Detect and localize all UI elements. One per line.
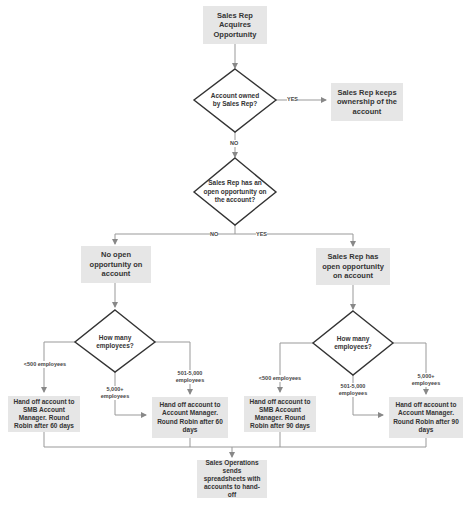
edge-label-left-5000plus: 5,000+ employees	[100, 386, 130, 400]
decision-employees-right-text: How many employees?	[330, 333, 376, 353]
no-open-opportunity-node: No open opportunity on account	[81, 246, 151, 283]
handoff-am-90-node: Hand off account to Account Manager. Rou…	[389, 397, 463, 438]
handoff-smb-60-node: Hand off account to SMB Account Manager.…	[8, 396, 80, 432]
decision-owned-text: Account owned by Sales Rep?	[207, 85, 263, 115]
edge-label-right-501-5000: 501-5,000 employees	[335, 383, 371, 397]
start-node: Sales Rep Acquires Opportunity	[203, 6, 267, 44]
handoff-am-60-node: Hand off account to Account Manager. Rou…	[152, 397, 228, 438]
edge-label-right-lt500: <500 employees	[257, 375, 303, 382]
edge-label-owned-yes: YES	[287, 96, 298, 103]
handoff-smb-90-node: Hand off account to SMB Account Manager.…	[244, 396, 316, 432]
edge-label-owned-no: NO	[230, 140, 238, 147]
edge-label-open-no: NO	[210, 231, 218, 238]
keeps-ownership-node: Sales Rep keeps ownership of the account	[331, 83, 403, 121]
edge-label-left-lt500: <500 employees	[22, 361, 68, 368]
sales-ops-node: Sales Operations sends spreadsheets with…	[197, 460, 267, 498]
edge-label-left-501-5000: 501-5,000 employees	[172, 370, 208, 384]
has-open-opportunity-node: Sales Rep has open opportunity on accoun…	[316, 248, 390, 285]
edge-label-open-yes: YES	[256, 231, 267, 238]
decision-employees-left-text: How many employees?	[92, 332, 138, 352]
edge-label-right-5000plus: 5,000+ employees	[410, 373, 442, 387]
decision-open-opp-text: Sales Rep has an open opportunity on the…	[200, 178, 270, 206]
